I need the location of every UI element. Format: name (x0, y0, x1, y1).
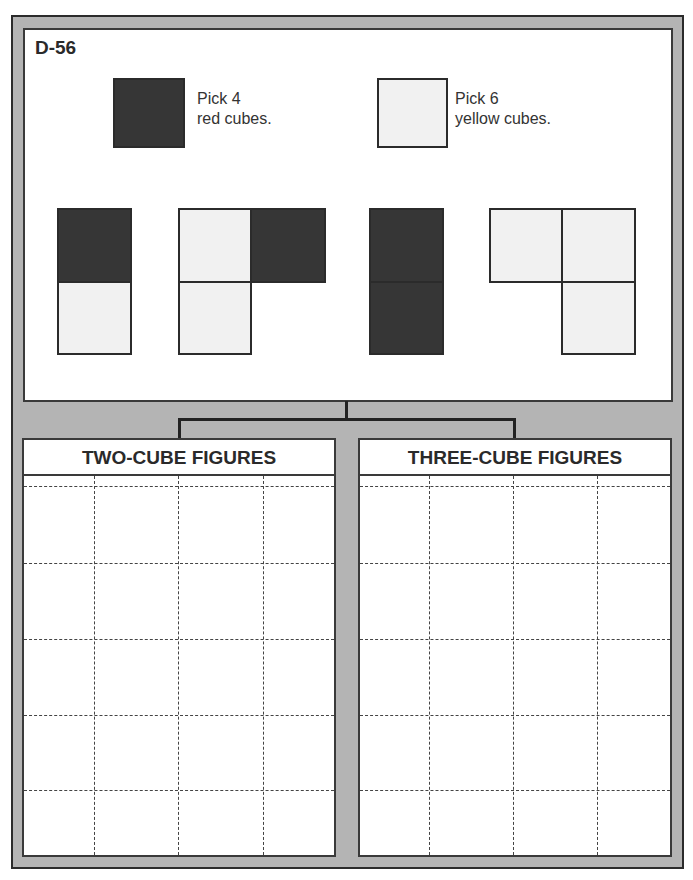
red-cube (250, 208, 326, 283)
yellow-cube (57, 281, 132, 355)
grid-line-horizontal (360, 790, 670, 791)
connector-bar (178, 418, 516, 421)
red-cube-swatch (113, 78, 185, 148)
example-figure-2 (178, 208, 326, 355)
yellow-cube (561, 281, 636, 355)
two-cube-figures-panel: TWO-CUBE FIGURES (22, 438, 336, 857)
card-id: D-56 (35, 37, 76, 59)
grid-line-horizontal (360, 715, 670, 716)
grid-line-horizontal (360, 639, 670, 640)
grid-line-horizontal (360, 486, 670, 487)
three-cube-figures-title: THREE-CUBE FIGURES (360, 440, 670, 476)
grid-line-horizontal (360, 563, 670, 564)
yellow-cube (178, 208, 252, 283)
grid-line-vertical (513, 476, 514, 855)
grid-line-horizontal (24, 486, 334, 487)
three-cube-figures-panel: THREE-CUBE FIGURES (358, 438, 672, 857)
yellow-cube (178, 281, 252, 355)
two-cube-figures-title: TWO-CUBE FIGURES (24, 440, 334, 476)
yellow-legend-line1: Pick 6 (455, 89, 551, 109)
yellow-cube (489, 208, 563, 283)
grid-line-vertical (178, 476, 179, 855)
red-cube (369, 281, 444, 355)
red-cube (57, 208, 132, 283)
grid-line-vertical (597, 476, 598, 855)
red-cube-instruction: Pick 4 red cubes. (197, 89, 272, 129)
grid-line-vertical (263, 476, 264, 855)
connector-left-drop (178, 418, 181, 439)
grid-line-horizontal (24, 563, 334, 564)
red-cube (369, 208, 444, 283)
example-figure-4 (489, 208, 636, 355)
grid-line-vertical (429, 476, 430, 855)
example-figure-3 (369, 208, 444, 355)
yellow-cube-instruction: Pick 6 yellow cubes. (455, 89, 551, 129)
grid-line-horizontal (24, 639, 334, 640)
red-legend-line1: Pick 4 (197, 89, 272, 109)
yellow-legend-line2: yellow cubes. (455, 109, 551, 129)
grid-line-horizontal (24, 790, 334, 791)
example-figure-1 (57, 208, 132, 355)
yellow-cube-swatch (377, 78, 448, 148)
red-legend-line2: red cubes. (197, 109, 272, 129)
connector-right-drop (513, 418, 516, 439)
grid-line-vertical (94, 476, 95, 855)
yellow-cube (561, 208, 636, 283)
grid-line-horizontal (24, 715, 334, 716)
